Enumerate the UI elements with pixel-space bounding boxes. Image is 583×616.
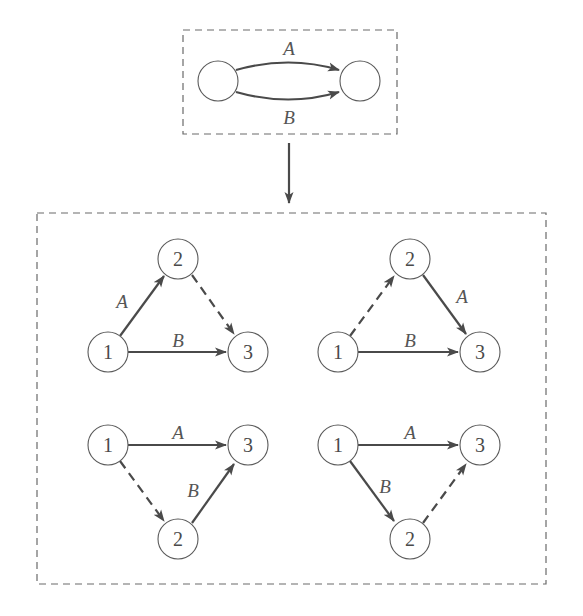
- edge-label-a: A: [281, 38, 295, 59]
- edge-label-a: A: [402, 422, 416, 443]
- node-3-label: 3: [243, 341, 253, 363]
- diagram-bottom-left: 1 3 2 A B: [88, 422, 268, 560]
- edge-label-b: B: [379, 476, 391, 497]
- edge-label-a: A: [114, 291, 128, 312]
- node-1-label: 1: [333, 341, 343, 363]
- source-node: [198, 61, 238, 101]
- diagram-top-right: 2 1 3 A B: [318, 239, 500, 372]
- target-node: [340, 61, 380, 101]
- edge-1-2-dashed: [120, 461, 164, 521]
- bottom-box-border: [37, 213, 546, 584]
- diagram-bottom-right: 1 3 2 A B: [318, 422, 500, 560]
- edge-a-curved: [236, 63, 339, 71]
- edge-label-b: B: [283, 107, 295, 128]
- node-2-label: 2: [405, 248, 415, 270]
- node-1-label: 1: [333, 434, 343, 456]
- node-1-label: 1: [103, 341, 113, 363]
- bottom-box: 2 1 3 A B 2 1 3 A B 1: [37, 213, 546, 584]
- edge-label-b: B: [187, 480, 199, 501]
- edge-b-curved: [236, 92, 339, 100]
- node-2-label: 2: [405, 528, 415, 550]
- network-decomposition-diagram: A B 2 1 3 A B 2 1: [0, 0, 583, 616]
- edge-2-3-dashed: [192, 275, 234, 334]
- edge-label-b: B: [172, 330, 184, 351]
- node-1-label: 1: [103, 434, 113, 456]
- node-3-label: 3: [243, 434, 253, 456]
- diagram-top-left: 2 1 3 A B: [88, 239, 268, 372]
- edge-label-a: A: [170, 422, 184, 443]
- node-2-label: 2: [173, 248, 183, 270]
- node-3-label: 3: [475, 341, 485, 363]
- node-2-label: 2: [173, 528, 183, 550]
- edge-label-b: B: [404, 330, 416, 351]
- node-3-label: 3: [475, 434, 485, 456]
- top-box: A B: [183, 30, 397, 134]
- edge-2-3-dashed: [423, 464, 466, 523]
- edge-label-a: A: [454, 286, 468, 307]
- edge-1-2-dashed: [350, 276, 394, 336]
